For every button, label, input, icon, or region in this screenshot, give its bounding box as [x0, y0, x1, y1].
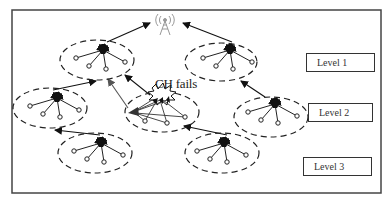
- link-l2left-to-l1left: [53, 81, 96, 90]
- level-1-label: Level 1: [306, 53, 375, 72]
- cluster-l1-left: [60, 40, 134, 80]
- antenna-tower-icon: [156, 14, 175, 35]
- link-l1left-to-bs: [107, 23, 150, 42]
- link-failed-to-l1left: [125, 75, 150, 95]
- link-reroute-to-l1left: [108, 79, 128, 108]
- link-l1right-to-bs: [183, 23, 232, 42]
- cluster-l2-left: [13, 88, 87, 128]
- level-3-label: Level 3: [303, 157, 372, 176]
- link-l2right-to-l1right: [241, 81, 265, 97]
- ch-fails-label: CH fails: [155, 76, 197, 92]
- cluster-l2-right: [234, 97, 308, 137]
- link-l3right-to-l2center: [184, 126, 227, 135]
- cluster-l3-right: [185, 133, 259, 173]
- cluster-l3-left: [58, 133, 132, 173]
- level-2-label: Level 2: [308, 103, 373, 122]
